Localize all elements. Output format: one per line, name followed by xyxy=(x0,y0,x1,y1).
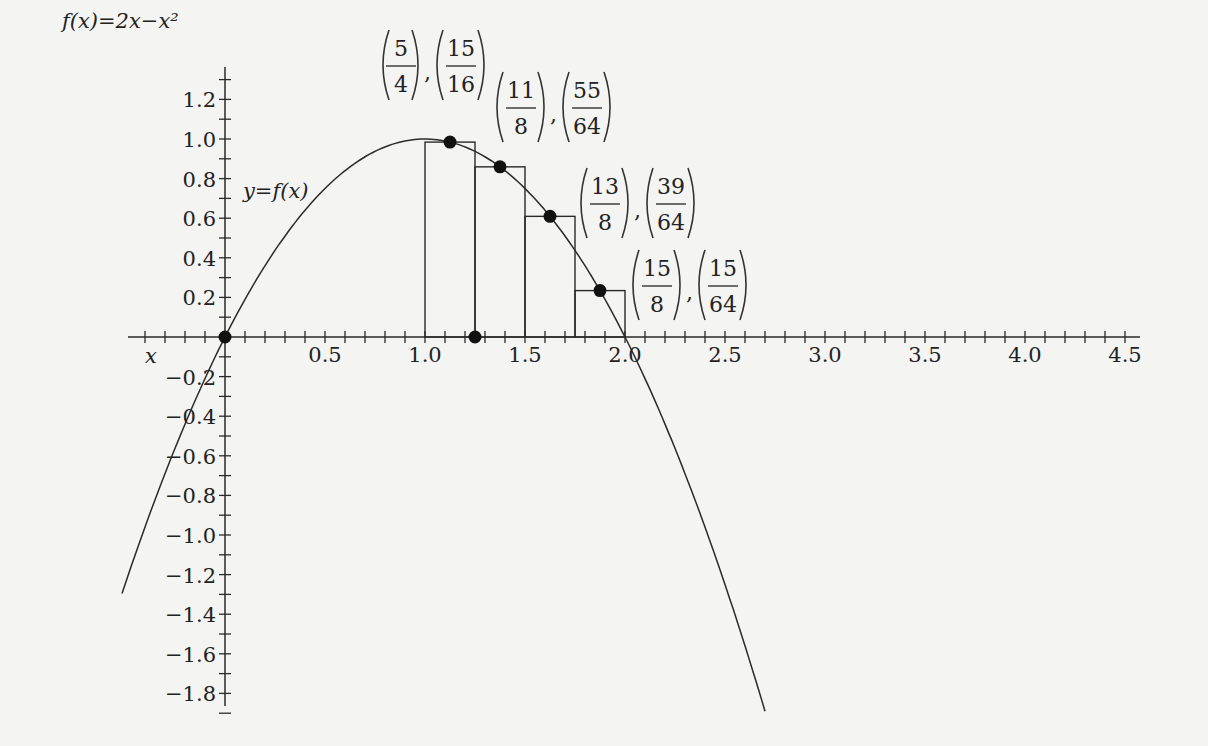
svg-text:,: , xyxy=(550,102,557,127)
svg-text:13: 13 xyxy=(591,174,619,199)
axes xyxy=(128,67,1140,713)
svg-text:8: 8 xyxy=(650,292,664,317)
data-point xyxy=(469,331,482,344)
x-tick-label: 4.0 xyxy=(1008,343,1041,367)
point-annotation: 138,3964 xyxy=(581,168,694,238)
svg-text:,: , xyxy=(634,198,641,223)
point-annotation: 54,1516 xyxy=(383,30,484,100)
svg-text:,: , xyxy=(686,280,693,305)
y-tick-label: 0.6 xyxy=(183,207,216,231)
svg-text:64: 64 xyxy=(573,114,601,139)
x-tick-label: 3.0 xyxy=(808,343,841,367)
data-point xyxy=(594,284,607,297)
svg-text:64: 64 xyxy=(709,292,737,317)
y-tick-label: −1.8 xyxy=(165,682,216,706)
riemann-rectangles xyxy=(425,142,625,337)
x-tick-label: 0.5 xyxy=(308,343,341,367)
svg-text:8: 8 xyxy=(598,210,612,235)
y-tick-label: 0.2 xyxy=(183,286,216,310)
svg-text:8: 8 xyxy=(514,114,528,139)
x-tick-label: 3.5 xyxy=(908,343,941,367)
curve-label: y=f(x) xyxy=(242,179,308,203)
y-tick-label: −0.2 xyxy=(165,366,216,390)
x-tick-label: 2.0 xyxy=(608,343,641,367)
data-point xyxy=(494,160,507,173)
function-title: f(x)=2x−x² xyxy=(60,9,179,33)
y-tick-label: −0.4 xyxy=(165,405,216,429)
chart: 0.51.01.52.02.53.03.54.04.51.21.00.80.60… xyxy=(0,0,1208,746)
point-annotations: 54,1516118,5564138,3964158,1564 xyxy=(383,30,746,320)
svg-text:15: 15 xyxy=(447,36,475,61)
riemann-rectangle xyxy=(475,167,525,337)
data-point xyxy=(544,210,557,223)
svg-text:11: 11 xyxy=(507,78,535,103)
y-tick-label: 1.0 xyxy=(183,128,216,152)
data-point xyxy=(219,331,232,344)
y-tick-label: 1.2 xyxy=(183,88,216,112)
svg-text:15: 15 xyxy=(643,256,671,281)
svg-text:16: 16 xyxy=(447,72,475,97)
riemann-rectangle xyxy=(425,142,475,337)
point-annotation: 118,5564 xyxy=(497,72,610,142)
svg-text:4: 4 xyxy=(394,72,408,97)
x-tick-label: 2.5 xyxy=(708,343,741,367)
riemann-rectangle xyxy=(575,291,625,337)
y-tick-label: −1.0 xyxy=(165,524,216,548)
svg-text:,: , xyxy=(424,60,431,85)
y-tick-label: −1.4 xyxy=(165,603,216,627)
y-tick-label: −1.2 xyxy=(165,564,216,588)
svg-text:39: 39 xyxy=(657,174,685,199)
x-tick-label: 1.0 xyxy=(408,343,441,367)
svg-text:64: 64 xyxy=(657,210,685,235)
svg-text:15: 15 xyxy=(709,256,737,281)
riemann-rectangle xyxy=(525,216,575,337)
x-tick-label: 4.5 xyxy=(1108,343,1141,367)
y-tick-label: −1.6 xyxy=(165,643,216,667)
y-tick-label: −0.8 xyxy=(165,484,216,508)
x-tick-label: 1.5 xyxy=(508,343,541,367)
x-axis-label: x xyxy=(145,344,157,368)
svg-text:55: 55 xyxy=(573,78,601,103)
point-annotation: 158,1564 xyxy=(633,250,746,320)
data-point xyxy=(444,136,457,149)
y-tick-label: 0.4 xyxy=(183,247,216,271)
data-points xyxy=(219,136,607,344)
y-tick-label: 0.8 xyxy=(183,168,216,192)
svg-text:5: 5 xyxy=(394,36,408,61)
y-tick-label: −0.6 xyxy=(165,445,216,469)
